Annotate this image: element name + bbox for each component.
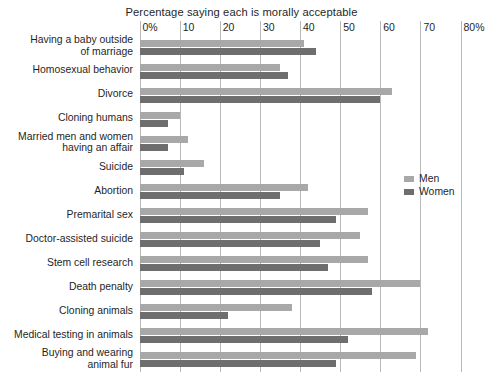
legend-swatch-icon xyxy=(404,189,414,195)
category-label: Buying and wearing animal fur xyxy=(0,347,133,370)
category-axis: Having a baby outside of marriageHomosex… xyxy=(0,35,133,372)
legend-swatch-icon xyxy=(404,176,414,182)
category-label: Having a baby outside of marriage xyxy=(0,34,133,57)
gridline-40 xyxy=(300,35,301,372)
gridline-70 xyxy=(420,35,421,372)
bar xyxy=(140,288,373,295)
bar xyxy=(140,184,309,191)
x-tick-label: 0% xyxy=(140,21,158,33)
category-label: Stem cell research xyxy=(0,257,133,269)
bar xyxy=(140,304,292,311)
category-label: Cloning humans xyxy=(0,112,133,124)
x-tick-label: 20 xyxy=(220,21,235,33)
category-label: Medical testing in animals xyxy=(0,329,133,341)
category-label: Suicide xyxy=(0,161,133,173)
x-axis: 0%1020304050607080% xyxy=(140,21,461,35)
legend-label: Women xyxy=(419,186,455,197)
bar xyxy=(140,336,349,343)
gridline-10 xyxy=(180,35,181,372)
bar xyxy=(140,48,317,55)
bar xyxy=(140,280,421,287)
bar xyxy=(140,232,361,239)
x-tick-label: 70 xyxy=(420,21,435,33)
category-label: Married men and women having an affair xyxy=(0,131,133,154)
bar xyxy=(140,256,369,263)
gridline-50 xyxy=(340,35,341,372)
gridline-80 xyxy=(461,35,462,372)
bar xyxy=(140,216,337,223)
bar xyxy=(140,64,280,71)
bar xyxy=(140,160,204,167)
gridline-0 xyxy=(140,35,141,372)
bar xyxy=(140,88,393,95)
x-tick-label: 10 xyxy=(180,21,195,33)
legend-label: Men xyxy=(419,173,439,184)
bar xyxy=(140,112,180,119)
x-tick-label: 80% xyxy=(461,21,485,33)
gridline-60 xyxy=(380,35,381,372)
bar xyxy=(140,72,288,79)
bar xyxy=(140,40,305,47)
bar xyxy=(140,312,228,319)
legend: MenWomen xyxy=(404,172,474,198)
legend-item: Men xyxy=(404,172,474,185)
x-tick-label: 60 xyxy=(380,21,395,33)
bar xyxy=(140,328,429,335)
category-label: Premarital sex xyxy=(0,209,133,221)
gridline-20 xyxy=(220,35,221,372)
bar xyxy=(140,360,337,367)
bar xyxy=(140,352,417,359)
x-tick-label: 30 xyxy=(260,21,275,33)
gridline-30 xyxy=(260,35,261,372)
bar xyxy=(140,208,369,215)
bar xyxy=(140,136,188,143)
category-label: Homosexual behavior xyxy=(0,64,133,76)
bar xyxy=(140,96,381,103)
bar xyxy=(140,144,168,151)
category-label: Cloning animals xyxy=(0,305,133,317)
bar xyxy=(140,168,184,175)
category-label: Abortion xyxy=(0,185,133,197)
category-label: Death penalty xyxy=(0,281,133,293)
x-tick-label: 50 xyxy=(340,21,355,33)
x-tick-label: 40 xyxy=(300,21,315,33)
bar xyxy=(140,240,321,247)
bar xyxy=(140,120,168,127)
chart-title: Percentage saying each is morally accept… xyxy=(0,6,483,18)
category-label: Doctor-assisted suicide xyxy=(0,233,133,245)
category-label: Divorce xyxy=(0,88,133,100)
bar xyxy=(140,192,280,199)
legend-item: Women xyxy=(404,185,474,198)
plot-area xyxy=(140,35,461,372)
bar xyxy=(140,264,329,271)
